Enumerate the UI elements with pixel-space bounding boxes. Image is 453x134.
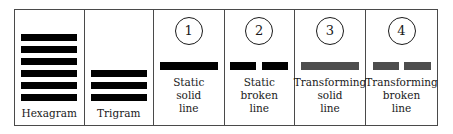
badge-slot-trigram [85, 10, 154, 39]
caption-text: broken [241, 89, 278, 102]
number-badge-1: 1 [175, 17, 203, 45]
line-segment [21, 58, 77, 65]
transforming-broken-line-glyph [366, 58, 437, 74]
panel-transforming-solid-line: 3 Transforming solid line [295, 10, 366, 125]
line-segment-right [404, 62, 430, 70]
caption-text: Transforming [294, 76, 366, 89]
line-segment [21, 94, 77, 101]
line-segment [301, 62, 359, 70]
caption-text: Transforming [365, 76, 437, 89]
number-badge-3: 3 [316, 17, 344, 45]
hexagram-line-2 [21, 82, 77, 89]
caption-text: broken [383, 89, 420, 102]
caption-trigram: Trigram [85, 107, 154, 125]
caption-transforming-solid-line: Transforming solid line [295, 74, 365, 125]
badge-slot-4: 4 [366, 10, 437, 52]
caption-text: line [179, 102, 199, 115]
badge-slot-hexagram [15, 10, 84, 34]
caption-text: solid [176, 89, 201, 102]
iching-line-types-legend: Hexagram Trigram 1 [14, 9, 438, 126]
panel-hexagram: Hexagram [15, 10, 85, 125]
caption-static-solid-line: Static solid line [154, 74, 224, 125]
panel-static-solid-line: 1 Static solid line [154, 10, 225, 125]
caption-text: Static [173, 76, 204, 89]
number-badge-2: 2 [245, 17, 273, 45]
hexagram-line-3 [21, 70, 77, 77]
caption-text: line [392, 102, 412, 115]
caption-text: solid [317, 89, 342, 102]
line-segment [91, 82, 147, 89]
caption-text: line [320, 102, 340, 115]
hexagram-glyph [15, 34, 84, 107]
line-row [230, 62, 288, 70]
badge-slot-2: 2 [225, 10, 295, 52]
badge-slot-1: 1 [154, 10, 224, 52]
hexagram-line-4 [21, 58, 77, 65]
caption-transforming-broken-line: Transforming broken line [366, 74, 437, 125]
caption-text: Static [244, 76, 275, 89]
number-badge-4: 4 [388, 17, 416, 45]
caption-static-broken-line: Static broken line [225, 74, 295, 125]
line-segment [91, 70, 147, 77]
line-row [160, 62, 218, 70]
panel-trigram: Trigram [85, 10, 155, 125]
line-segment [21, 46, 77, 53]
line-segment [21, 82, 77, 89]
trigram-line-1 [91, 94, 147, 101]
panel-static-broken-line: 2 Static broken line [225, 10, 296, 125]
static-broken-line-glyph [225, 58, 295, 74]
line-segment [91, 94, 147, 101]
hexagram-line-5 [21, 46, 77, 53]
badge-slot-3: 3 [295, 10, 365, 52]
caption-text: Hexagram [21, 107, 77, 120]
panel-transforming-broken-line: 4 Transforming broken line [366, 10, 437, 125]
hexagram-line-1 [21, 94, 77, 101]
line-segment-left [230, 62, 256, 70]
static-solid-line-glyph [154, 58, 224, 74]
line-segment-right [262, 62, 288, 70]
line-segment [21, 70, 77, 77]
trigram-line-3 [91, 70, 147, 77]
line-segment-left [373, 62, 399, 70]
line-segment [160, 62, 218, 70]
line-segment [21, 34, 77, 41]
trigram-line-2 [91, 82, 147, 89]
caption-text: line [249, 102, 269, 115]
line-row [301, 62, 359, 70]
caption-text: Trigram [97, 107, 140, 120]
transforming-solid-line-glyph [295, 58, 365, 74]
line-row [373, 62, 431, 70]
trigram-glyph [85, 39, 154, 107]
hexagram-line-6 [21, 34, 77, 41]
caption-hexagram: Hexagram [15, 107, 84, 125]
